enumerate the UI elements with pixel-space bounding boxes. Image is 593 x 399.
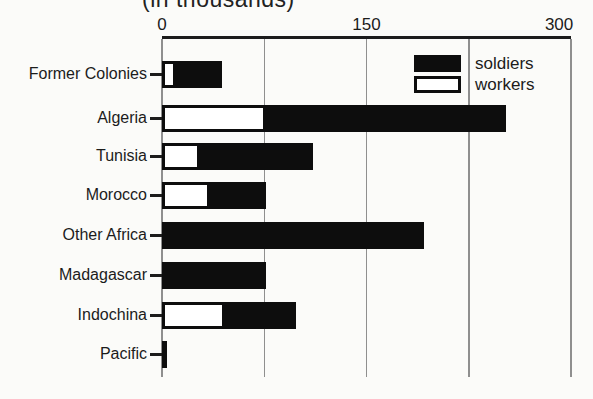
gridline-150 (366, 39, 368, 377)
category-label: Pacific (0, 345, 147, 363)
bar-row (162, 262, 266, 289)
legend-item-soldiers: soldiers (414, 54, 535, 73)
category-tick-mark (150, 194, 162, 197)
legend-label: soldiers (475, 54, 534, 73)
soldiers-segment (168, 262, 266, 289)
workers-segment (162, 143, 200, 170)
category-tick-mark (150, 353, 162, 356)
gridline-300 (570, 39, 572, 377)
legend: soldiersworkers (414, 54, 535, 96)
category-label: Morocco (0, 186, 147, 204)
category-label: Algeria (0, 109, 147, 127)
chart-canvas: (in thousands) 0150300 Former ColoniesAl… (0, 0, 593, 399)
legend-item-workers: workers (414, 75, 535, 94)
legend-label: workers (475, 75, 535, 94)
category-tick-mark (150, 314, 162, 317)
x-axis-tick-label-0: 0 (157, 15, 166, 35)
soldiers-segment (200, 143, 313, 170)
soldiers-segment (225, 302, 296, 329)
bar-row (162, 341, 167, 368)
bar-row (162, 105, 506, 132)
bar-row (162, 222, 424, 249)
workers-segment (162, 302, 225, 329)
bar-row (162, 143, 313, 170)
category-tick-mark (150, 117, 162, 120)
category-label: Other Africa (0, 226, 147, 244)
soldiers-segment (162, 341, 167, 368)
category-label: Tunisia (0, 147, 147, 165)
bar-row (162, 182, 266, 209)
legend-swatch-soldiers (414, 55, 461, 72)
soldiers-segment (210, 182, 266, 209)
soldiers-segment (162, 222, 424, 249)
category-label: Madagascar (0, 266, 147, 284)
category-tick-mark (150, 155, 162, 158)
x-axis-tick-label-150: 150 (352, 15, 380, 35)
legend-swatch-workers (414, 76, 461, 93)
soldiers-segment (266, 105, 506, 132)
x-axis-tick-label-300: 300 (545, 15, 573, 35)
workers-segment (162, 61, 176, 88)
workers-segment (162, 105, 266, 132)
category-tick-mark (150, 274, 162, 277)
soldiers-segment (176, 61, 222, 88)
bar-row (162, 302, 296, 329)
x-axis-line (162, 36, 571, 39)
chart-title: (in thousands) (142, 0, 295, 13)
bar-row (162, 61, 222, 88)
category-label: Indochina (0, 306, 147, 324)
category-tick-mark (150, 234, 162, 237)
workers-segment (162, 182, 210, 209)
category-tick-mark (150, 73, 162, 76)
category-label: Former Colonies (0, 65, 147, 83)
